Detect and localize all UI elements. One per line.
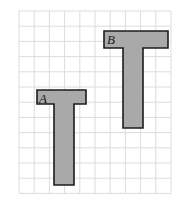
shape-label-a: A — [39, 92, 47, 105]
figure-canvas: A B — [0, 0, 188, 210]
shape-layer — [0, 0, 188, 210]
shape-label-b: B — [107, 33, 115, 46]
